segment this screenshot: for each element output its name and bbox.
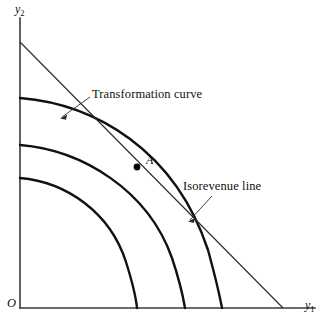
tangency-point-a-marker (134, 164, 141, 171)
x-axis-label-subscript: 1 (310, 304, 314, 314)
isorevenue-line (20, 42, 283, 308)
transformation-curve-figure: Transformation curve Isorevenue line y2 … (0, 0, 329, 330)
transformation-curve-label: Transformation curve (92, 87, 202, 102)
figure-canvas (0, 0, 329, 330)
origin-label: O (7, 296, 16, 311)
isorevenue-line-leader-line (190, 196, 212, 220)
transformation-curve-outer (20, 98, 222, 308)
y-axis-label-subscript: 2 (20, 8, 24, 18)
transformation-curve-inner (20, 178, 137, 308)
isorevenue-line-label: Isorevenue line (183, 179, 261, 194)
x-axis-label: y1 (305, 298, 315, 314)
tangency-point-a-label: A (146, 153, 153, 168)
transformation-curve-leader-arrow-icon (60, 114, 67, 119)
y-axis-label: y2 (15, 2, 25, 18)
transformation-curve-middle (20, 145, 185, 308)
